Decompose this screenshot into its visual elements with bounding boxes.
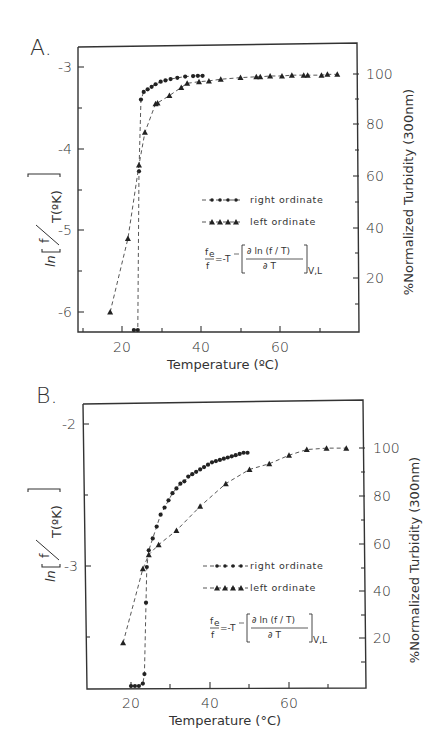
panel-b: B. -2 -3 ln f T(ºK) xyxy=(28,383,422,728)
right-tick-label: 100 xyxy=(373,440,400,456)
panel-a-equation: f e f =-T ∂ ln (f / T) ∂ T V,L xyxy=(205,245,322,276)
svg-text:=-T: =-T xyxy=(215,254,231,264)
series-line-left-ordinate xyxy=(123,448,346,643)
left-tick-label: -3 xyxy=(64,558,78,574)
circle-marker-icon xyxy=(151,536,155,540)
triangle-marker-icon xyxy=(136,162,142,168)
circle-marker-icon xyxy=(137,684,141,688)
triangle-marker-icon xyxy=(107,309,113,315)
panel-a-x-axis: 20 40 60 Temperature (ºC) xyxy=(83,326,320,372)
circle-marker-icon xyxy=(150,85,154,89)
circle-marker-icon xyxy=(182,479,186,483)
panel-b-left-axis-label: ln f T(ºK) xyxy=(28,489,64,582)
triangle-marker-icon xyxy=(178,84,184,90)
circle-marker-icon xyxy=(141,682,145,686)
svg-text:ln: ln xyxy=(43,255,58,267)
right-tick-label: 60 xyxy=(373,536,391,552)
right-tick-label: 100 xyxy=(366,66,393,82)
left-tick-label: -3 xyxy=(58,59,72,75)
left-tick-label: -2 xyxy=(62,416,76,432)
panel-b-frame xyxy=(83,400,366,689)
triangle-marker-icon xyxy=(142,129,148,135)
circle-marker-icon xyxy=(175,76,179,80)
panel-b-equation: f e f =-T ∂ ln (f / T) ∂ T V,L xyxy=(210,614,327,645)
right-axis-label: %Normalized Turbidity (300nm) xyxy=(407,457,422,663)
chart-figure: A. -3 -4 -5 -6 ln f T(ºK) xyxy=(0,0,438,745)
circle-marker-icon xyxy=(198,467,202,471)
panel-a-frame xyxy=(78,43,359,332)
svg-text:∂ T: ∂ T xyxy=(263,261,277,271)
x-axis-label: Temperature (ºC) xyxy=(166,357,279,372)
circle-marker-icon xyxy=(245,451,249,455)
series-line-right-ordinate xyxy=(131,453,248,686)
x-axis-label: Temperature (°C) xyxy=(168,713,281,728)
svg-text:f: f xyxy=(211,630,215,640)
circle-marker-icon xyxy=(196,74,200,78)
circle-marker-icon xyxy=(144,601,148,605)
x-tick-label: 40 xyxy=(201,695,219,711)
circle-marker-icon xyxy=(139,98,143,102)
svg-text:∂ ln (f / T): ∂ ln (f / T) xyxy=(247,246,290,256)
right-tick-label: 80 xyxy=(366,116,384,132)
panel-a-right-axis: 100 80 60 40 20 %Normalized Turbidity (3… xyxy=(353,66,416,304)
circle-marker-icon xyxy=(186,474,190,478)
circle-marker-icon xyxy=(234,453,238,457)
legend-label-right-ordinate: right ordinate xyxy=(250,560,323,571)
circle-marker-icon xyxy=(159,80,163,84)
svg-text:f: f xyxy=(206,261,210,271)
circle-marker-icon xyxy=(159,513,163,517)
circle-marker-icon xyxy=(200,74,204,78)
circle-marker-icon xyxy=(194,470,198,474)
triangle-marker-icon xyxy=(223,481,229,487)
triangle-marker-icon xyxy=(125,236,131,242)
circle-marker-icon xyxy=(153,82,157,86)
circle-marker-icon xyxy=(146,87,150,91)
circle-marker-icon xyxy=(129,684,133,688)
panel-b-right-axis: 100 80 60 40 20 %Normalized Turbidity (3… xyxy=(359,440,422,663)
circle-marker-icon xyxy=(222,457,226,461)
circle-marker-icon xyxy=(145,565,149,569)
svg-text:V,L: V,L xyxy=(308,266,322,276)
svg-text:=-T: =-T xyxy=(220,623,236,633)
svg-text:T(ºK): T(ºK) xyxy=(49,505,64,539)
circle-marker-icon xyxy=(168,77,172,81)
left-tick-label: -5 xyxy=(58,222,72,238)
panel-b-label: B. xyxy=(36,383,57,408)
circle-marker-icon xyxy=(210,460,214,464)
panel-a-left-axis-label: ln f T(ºK) xyxy=(28,174,64,267)
series-line-right-ordinate xyxy=(134,76,203,330)
legend-label-left-ordinate: left ordinate xyxy=(250,582,316,593)
circle-marker-icon xyxy=(241,451,245,455)
circle-marker-icon xyxy=(142,672,146,676)
triangle-marker-icon xyxy=(197,503,203,509)
circle-marker-icon xyxy=(174,486,178,490)
circle-marker-icon xyxy=(183,74,187,78)
panel-a-label: A. xyxy=(30,35,52,60)
triangle-marker-icon xyxy=(166,93,172,99)
circle-marker-icon xyxy=(238,452,242,456)
panel-a-left-axis: -3 -4 -5 -6 xyxy=(58,59,84,320)
x-tick-label: 40 xyxy=(192,339,210,355)
circle-marker-icon xyxy=(163,78,167,82)
right-tick-label: 40 xyxy=(373,583,391,599)
circle-marker-icon xyxy=(202,465,206,469)
triangle-marker-icon xyxy=(196,79,202,85)
triangle-marker-icon xyxy=(120,640,126,646)
svg-text:ln: ln xyxy=(43,570,58,582)
circle-marker-icon xyxy=(133,684,137,688)
svg-text:∂ T: ∂ T xyxy=(268,630,282,640)
left-tick-label: -6 xyxy=(58,304,72,320)
circle-marker-icon xyxy=(142,90,146,94)
svg-text:f: f xyxy=(37,553,52,558)
legend-label-right-ordinate: right ordinate xyxy=(250,194,323,205)
right-tick-label: 20 xyxy=(366,270,384,286)
circle-marker-icon xyxy=(166,498,170,502)
left-tick-label: -4 xyxy=(58,141,72,157)
circle-marker-icon xyxy=(136,328,140,332)
circle-marker-icon xyxy=(206,463,210,467)
circle-marker-icon xyxy=(214,459,218,463)
x-tick-label: 20 xyxy=(113,339,131,355)
panel-b-legend: right ordinate left ordinate xyxy=(203,560,323,593)
circle-marker-icon xyxy=(132,328,136,332)
circle-marker-icon xyxy=(155,524,159,528)
